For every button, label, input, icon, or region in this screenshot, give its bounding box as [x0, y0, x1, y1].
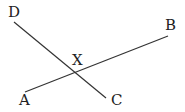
label-c: C [111, 93, 122, 108]
line-dc [14, 22, 106, 98]
label-b: B [165, 18, 176, 33]
label-d: D [8, 5, 20, 20]
line-ab [25, 36, 168, 92]
label-a: A [19, 93, 30, 108]
label-x: X [72, 53, 83, 68]
diagram-canvas: D B X A C [0, 0, 185, 112]
